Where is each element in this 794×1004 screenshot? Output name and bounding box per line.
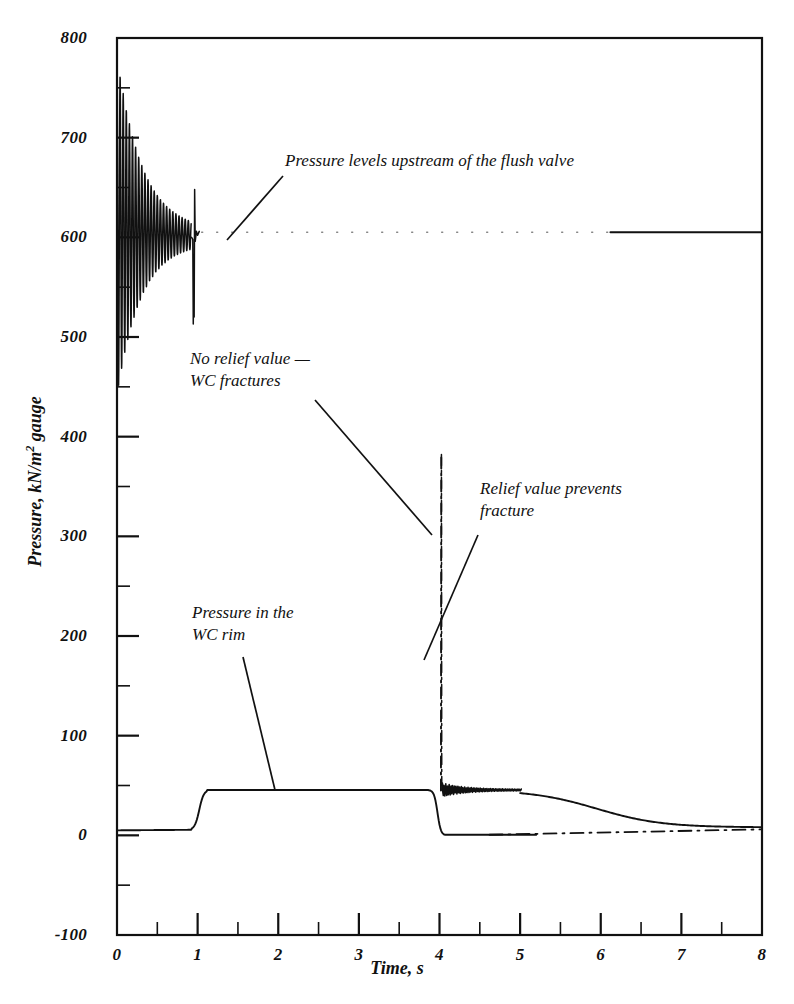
pressure-time-chart: -1000100200300400500600700800012345678 P… (0, 0, 794, 1004)
x-axis-major-ticks (198, 913, 682, 935)
annotation-no-relief-valve: No relief value — WC fractures (190, 348, 310, 393)
series-wc-rim-no-relief (117, 790, 536, 835)
y-axis-unit-exponent: 2 (23, 446, 37, 452)
leader-line-relief-valve (424, 535, 478, 660)
y-tick-label: 500 (0, 327, 87, 347)
y-tick-label: 800 (0, 28, 87, 48)
y-tick-label: 700 (0, 128, 87, 148)
annotation-wc-rim: Pressure in the WC rim (192, 602, 294, 647)
y-tick-label: -100 (0, 925, 87, 945)
y-axis-title: Pressure, kN/m2 gauge (23, 352, 46, 612)
plot-frame (117, 38, 762, 935)
series-flush-valve-upstream (117, 55, 762, 385)
x-axis-title: Time, s (0, 958, 794, 979)
leader-line-no-relief-valve (315, 400, 432, 535)
y-tick-label: 200 (0, 626, 87, 646)
y-tick-label: 100 (0, 726, 87, 746)
annotation-relief-valve: Relief value prevents fracture (480, 478, 622, 523)
leader-line-flush-valve (227, 176, 283, 240)
leader-line-wc-rim (243, 657, 275, 790)
y-tick-label: 600 (0, 227, 87, 247)
y-tick-label: 0 (0, 825, 87, 845)
annotation-flush-valve: Pressure levels upstream of the flush va… (285, 150, 574, 172)
